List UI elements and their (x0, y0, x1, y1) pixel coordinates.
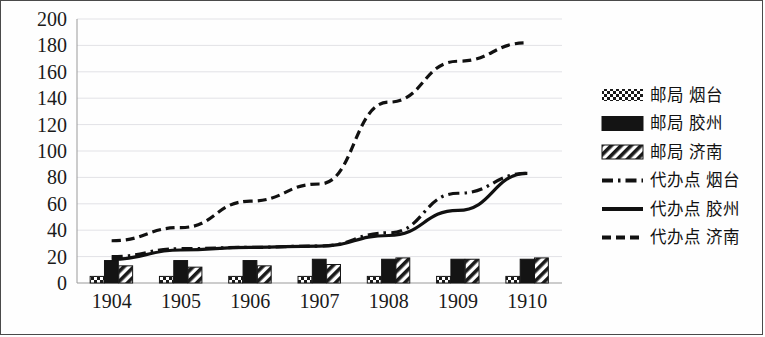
bar (229, 276, 243, 283)
dotted-bar-swatch (602, 89, 643, 101)
bar (104, 261, 118, 283)
y-axis-tick-label: 200 (37, 8, 67, 30)
legend-item: 邮局 胶州 (602, 114, 723, 133)
legend-item: 代办点 烟台 (602, 171, 740, 190)
legend-item: 邮局 烟台 (602, 86, 723, 105)
legend-item: 代办点 胶州 (602, 200, 740, 219)
y-axis-tick-label: 120 (37, 114, 67, 136)
y-axis-tick-label: 60 (47, 193, 67, 215)
bar (437, 276, 451, 283)
y-axis-tick-label: 160 (37, 61, 67, 83)
chart-legend: 邮局 烟台邮局 胶州邮局 济南代办点 烟台代办点 胶州代办点 济南 (602, 86, 740, 248)
bar (298, 276, 312, 283)
bar (535, 258, 549, 283)
legend-item: 邮局 济南 (602, 143, 723, 162)
bar (327, 265, 341, 283)
y-axis-tick-label: 140 (37, 87, 67, 109)
bar (90, 276, 104, 283)
legend-item-label: 代办点 烟台 (650, 171, 740, 190)
legend-item-label: 代办点 济南 (650, 228, 740, 247)
chart-frame: 020406080100120140160180200 190419051906… (0, 0, 763, 335)
legend-item-label: 代办点 胶州 (650, 200, 740, 219)
legend-item-label: 邮局 济南 (650, 143, 723, 162)
bar (520, 259, 534, 283)
x-axis-tick-label: 1906 (230, 290, 270, 312)
y-axis-tick-label: 180 (37, 34, 67, 56)
legend-item: 代办点 济南 (602, 228, 740, 247)
bar (396, 258, 410, 283)
bar (159, 276, 173, 283)
combined-bar-line-chart: 020406080100120140160180200 190419051906… (1, 1, 764, 336)
bar (188, 267, 202, 283)
hatched-bar-swatch (602, 145, 643, 159)
bar (174, 261, 188, 283)
data-line (112, 173, 528, 256)
bar (382, 259, 396, 283)
x-axis-tick-label: 1908 (369, 290, 409, 312)
bar (312, 259, 326, 283)
y-axis-tick-label: 20 (47, 246, 67, 268)
bar (243, 261, 257, 283)
x-axis-tick-labels: 1904190519061907190819091910 (92, 290, 548, 312)
x-axis-tick-label: 1910 (507, 290, 547, 312)
bar (367, 276, 381, 283)
bar (119, 266, 133, 283)
solid-black-bar-swatch (602, 117, 643, 131)
data-line (112, 173, 528, 259)
legend-item-label: 邮局 烟台 (650, 86, 723, 105)
bar (257, 266, 271, 283)
bar (506, 276, 520, 283)
x-axis-tick-label: 1909 (438, 290, 478, 312)
y-axis-tick-label: 40 (47, 219, 67, 241)
y-axis-tick-label: 80 (47, 166, 67, 188)
legend-item-label: 邮局 胶州 (650, 114, 723, 133)
y-axis-tick-labels: 020406080100120140160180200 (37, 8, 67, 294)
y-axis-tick-label: 0 (57, 272, 67, 294)
x-axis-tick-label: 1904 (92, 290, 132, 312)
bar (451, 259, 465, 283)
y-axis-tick-label: 100 (37, 140, 67, 162)
x-axis-tick-label: 1907 (300, 290, 340, 312)
x-axis-tick-label: 1905 (161, 290, 201, 312)
gridlines (77, 19, 562, 283)
bar (465, 259, 479, 283)
bar-series-group (90, 258, 548, 283)
